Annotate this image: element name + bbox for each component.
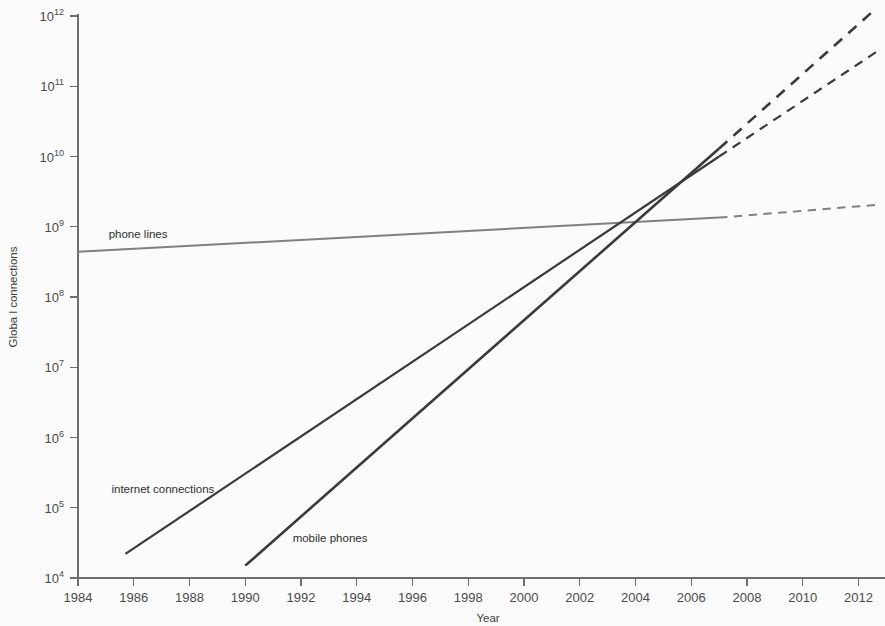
series-label-group: phone linesinternet connectionsmobile ph… — [109, 228, 368, 544]
y-tick-label: 1012 — [40, 7, 64, 24]
x-tick-label: 1998 — [454, 590, 483, 605]
x-axis-tick-group: 1984198619881990199219941996199820002002… — [64, 578, 873, 605]
x-tick-label: 1988 — [175, 590, 204, 605]
x-tick-label: 2010 — [788, 590, 817, 605]
y-tick-label: 108 — [45, 288, 64, 305]
y-tick-label: 106 — [45, 429, 64, 446]
y-tick-label: 109 — [45, 218, 64, 235]
x-tick-label: 2004 — [621, 590, 650, 605]
series-label-mobile-phones: mobile phones — [293, 532, 368, 544]
x-tick-label: 1996 — [398, 590, 427, 605]
x-tick-label: 1984 — [64, 590, 93, 605]
x-tick-label: 2002 — [565, 590, 594, 605]
series-line-solid — [245, 148, 719, 565]
x-axis-title: Year — [476, 612, 499, 624]
series-line-dashed — [719, 52, 876, 157]
x-tick-label: 2008 — [733, 590, 762, 605]
series-line-dashed — [719, 205, 876, 218]
y-axis-title: Globa l connections — [7, 246, 19, 347]
x-tick-label: 1990 — [231, 590, 260, 605]
series-group — [78, 8, 877, 566]
y-axis-tick-group: 104105106107108109101010111012 — [40, 7, 78, 586]
y-tick-label: 104 — [45, 569, 64, 586]
series-line-dashed — [719, 8, 876, 149]
series-line-solid — [125, 157, 719, 554]
x-tick-label: 1986 — [119, 590, 148, 605]
x-tick-label: 2012 — [844, 590, 873, 605]
series-label-phone-lines: phone lines — [109, 228, 168, 240]
chart-container: 104105106107108109101010111012 198419861… — [0, 0, 885, 626]
y-tick-label: 105 — [45, 499, 64, 516]
series-label-internet-connections: internet connections — [111, 483, 214, 495]
y-tick-label: 107 — [45, 358, 64, 375]
x-tick-label: 2006 — [677, 590, 706, 605]
x-tick-label: 2000 — [510, 590, 539, 605]
y-tick-label: 1010 — [40, 148, 64, 165]
line-chart-svg: 104105106107108109101010111012 198419861… — [0, 0, 885, 626]
x-tick-label: 1992 — [287, 590, 316, 605]
y-tick-label: 1011 — [40, 77, 64, 94]
x-tick-label: 1994 — [342, 590, 371, 605]
